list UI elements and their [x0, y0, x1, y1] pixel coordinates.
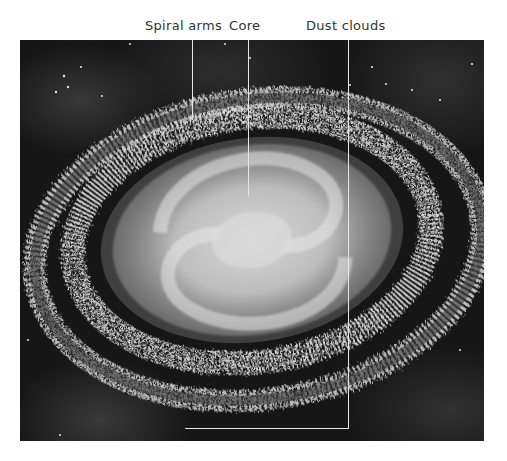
leader-line-core — [248, 40, 249, 196]
leader-line-spiral-arms — [192, 40, 193, 120]
label-core: Core — [229, 18, 260, 33]
galaxy-image — [20, 40, 484, 441]
label-spiral-arms: Spiral arms — [145, 18, 222, 33]
galaxy-illustration — [20, 40, 484, 441]
leader-line-dust-clouds-horizontal — [185, 428, 349, 429]
label-dust-clouds: Dust clouds — [306, 18, 386, 33]
leader-line-dust-clouds — [348, 40, 349, 428]
